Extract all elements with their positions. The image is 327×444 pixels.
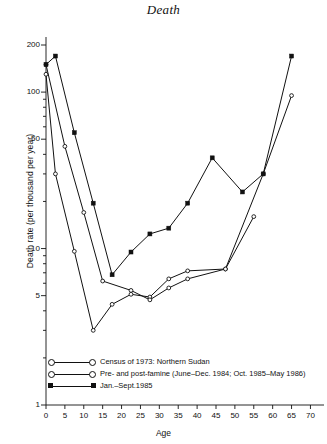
x-tick-label: 40: [187, 411, 207, 420]
y-tick-label: 5: [8, 291, 40, 300]
y-tick-label: 1: [8, 400, 40, 409]
x-tick-label: 10: [74, 411, 94, 420]
legend-label: Pre- and post-famine (June–Dec. 1984; Oc…: [100, 368, 306, 380]
series-2: [44, 54, 294, 277]
x-tick-label: 70: [300, 411, 320, 420]
filled-square-icon: [48, 383, 53, 388]
axis-lines: [46, 37, 324, 405]
x-axis-ticks: [46, 405, 310, 409]
x-axis-label: Age: [0, 428, 327, 438]
x-tick-label: 60: [263, 411, 283, 420]
open-circle-icon: [89, 371, 96, 378]
x-tick-label: 65: [282, 411, 302, 420]
x-tick-label: 55: [244, 411, 264, 420]
y-tick-label: 10: [8, 244, 40, 253]
x-tick-label: 20: [112, 411, 132, 420]
x-tick-label: 25: [130, 411, 150, 420]
legend-item-pre-post-famine: Pre- and post-famine (June–Dec. 1984; Oc…: [48, 368, 306, 380]
legend-item-census-1973: Census of 1973: Northern Sudan: [48, 356, 306, 368]
y-tick-label: 100: [8, 87, 40, 96]
y-tick-label: 50: [8, 134, 40, 143]
legend-line: [50, 374, 94, 375]
x-tick-label: 35: [168, 411, 188, 420]
x-tick-label: 0: [36, 411, 56, 420]
legend-marker-open-circle: [48, 356, 96, 368]
legend-label: Jan.–Sept.1985: [100, 380, 153, 392]
chart-legend: Census of 1973: Northern Sudan Pre- and …: [48, 356, 306, 392]
open-circle-icon: [48, 371, 55, 378]
x-tick-label: 50: [225, 411, 245, 420]
legend-line: [50, 386, 94, 387]
figure-death-rate-by-age: Death Death rate (per thousand per year)…: [0, 0, 327, 444]
x-tick-label: 15: [93, 411, 113, 420]
legend-item-jan-sept-1985: Jan.–Sept.1985: [48, 380, 306, 392]
open-circle-icon: [89, 359, 96, 366]
y-tick-label: 200: [8, 40, 40, 49]
x-tick-label: 5: [55, 411, 75, 420]
x-tick-label: 45: [206, 411, 226, 420]
y-axis-label: Death rate (per thousand per year): [25, 76, 35, 326]
open-circle-icon: [48, 359, 55, 366]
y-axis-ticks: [41, 45, 46, 405]
x-tick-label: 30: [149, 411, 169, 420]
series-1: [44, 63, 293, 302]
legend-marker-open-circle: [48, 368, 96, 380]
legend-marker-filled-square: [48, 380, 96, 392]
filled-square-icon: [91, 383, 96, 388]
legend-label: Census of 1973: Northern Sudan: [100, 356, 210, 368]
series-0: [44, 72, 256, 332]
legend-line: [50, 362, 94, 363]
